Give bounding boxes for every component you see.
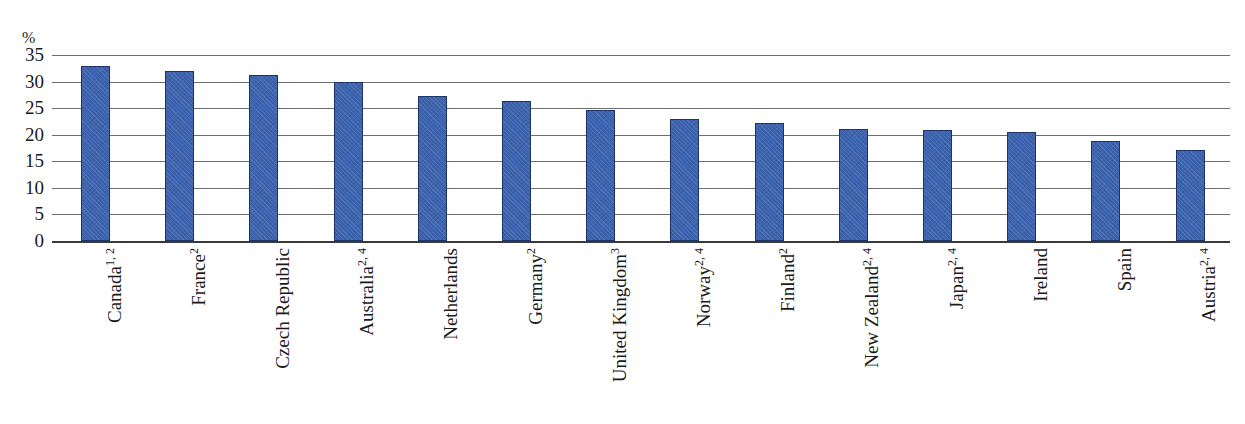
category-footnote-marker: 2 (776, 248, 790, 254)
category-name: Norway (693, 266, 714, 327)
category-name: Canada (104, 266, 125, 323)
bar (670, 119, 699, 241)
bar (334, 82, 363, 241)
y-axis-tick-label: 5 (8, 204, 44, 223)
bar (1176, 150, 1205, 241)
category-name: France (188, 254, 209, 306)
bar (418, 96, 447, 241)
category-footnote-marker: 2, 4 (1197, 248, 1211, 266)
category-name: United Kingdom (609, 254, 630, 382)
y-axis-tick-label: 20 (8, 125, 44, 144)
category-footnote-marker: 2, 4 (860, 248, 874, 266)
y-axis-tick-label: 25 (8, 98, 44, 117)
category-name: Germany (525, 254, 546, 325)
x-axis-category-label: Austria2, 4 (1199, 248, 1219, 424)
bar (586, 110, 615, 241)
category-name: Ireland (1030, 248, 1051, 302)
bar-chart: % 35302520151050 Canada1, 2France2Czech … (0, 0, 1245, 424)
x-axis-category-label: Ireland (1031, 248, 1051, 424)
bar (249, 75, 278, 241)
x-axis-category-label: Japan2, 4 (947, 248, 967, 424)
plot-area (52, 55, 1230, 241)
category-name: Czech Republic (272, 248, 293, 369)
x-axis-category-label: Australia2, 4 (357, 248, 377, 424)
bar (502, 101, 531, 241)
x-axis-category-label: Finland2 (778, 248, 798, 424)
bar (165, 71, 194, 241)
x-axis-baseline (52, 241, 1230, 243)
category-name: Australia (356, 266, 377, 336)
category-name: Netherlands (440, 248, 461, 340)
x-axis-category-label: United Kingdom3 (610, 248, 630, 424)
x-axis-category-label: Netherlands (441, 248, 461, 424)
y-axis-tick-label: 10 (8, 178, 44, 197)
category-footnote-marker: 2 (186, 248, 200, 254)
y-axis-tick-label: 0 (8, 231, 44, 250)
bar (839, 129, 868, 241)
x-axis-category-label: Spain (1115, 248, 1135, 424)
category-name: Spain (1114, 248, 1135, 291)
x-axis-category-label: Norway2, 4 (694, 248, 714, 424)
x-axis-category-label: New Zealand2, 4 (862, 248, 882, 424)
category-name: Japan (946, 266, 967, 309)
x-axis-category-label: France2 (189, 248, 209, 424)
y-axis-tick-label: 35 (8, 45, 44, 64)
y-axis-tick-label: 15 (8, 151, 44, 170)
category-footnote-marker: 1, 2 (102, 248, 116, 266)
x-axis-category-label: Germany2 (526, 248, 546, 424)
category-name: Finland (777, 254, 798, 312)
bar (1091, 141, 1120, 241)
bar (755, 123, 784, 242)
x-axis-category-label: Canada1, 2 (105, 248, 125, 424)
category-footnote-marker: 2, 4 (944, 248, 958, 266)
category-name: New Zealand (861, 266, 882, 368)
category-footnote-marker: 2, 4 (355, 248, 369, 266)
category-footnote-marker: 3 (607, 248, 621, 254)
bar (923, 130, 952, 241)
category-footnote-marker: 2 (523, 248, 537, 254)
y-axis-tick-label: 30 (8, 72, 44, 91)
x-axis-category-label: Czech Republic (273, 248, 293, 424)
bar (1007, 132, 1036, 241)
category-footnote-marker: 2, 4 (692, 248, 706, 266)
category-name: Austria (1198, 266, 1219, 322)
bar (81, 66, 110, 241)
